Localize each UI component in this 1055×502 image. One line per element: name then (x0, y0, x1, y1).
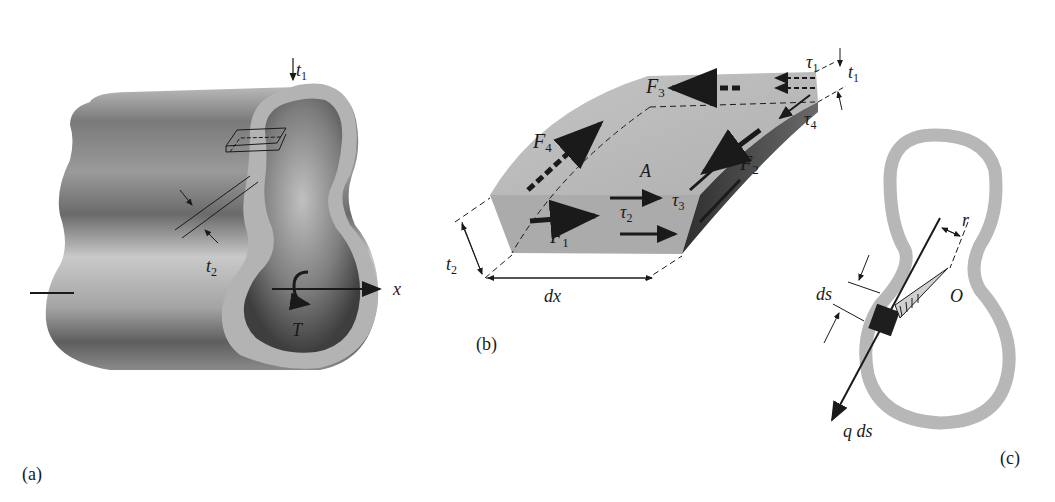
panel-a-tube-diagram: t1 t2 x T (a) (22, 58, 401, 485)
label-ds: ds (816, 284, 832, 304)
element-front-face (490, 195, 700, 254)
label-x-axis: x (392, 279, 401, 299)
label-t1-b: t1 (848, 62, 859, 85)
caption-a: (a) (22, 464, 42, 485)
label-dx: dx (544, 286, 561, 306)
label-r: r (962, 210, 970, 230)
figure-canvas: t1 t2 x T (a) (0, 0, 1055, 502)
caption-c: (c) (1000, 448, 1020, 469)
caption-b: (b) (476, 334, 497, 355)
label-qds: q ds (843, 421, 873, 441)
label-t2-b: t2 (446, 254, 457, 277)
panel-b-element-diagram: F4 F3 F2 F1 A τ2 τ3 τ1 τ4 t1 t2 dx (b) (446, 48, 859, 355)
label-A: A (639, 161, 652, 181)
panel-c-cross-section: ds r O q ds (c) (816, 135, 1020, 469)
label-tau1: τ1 (806, 52, 818, 75)
label-O: O (950, 286, 963, 306)
label-t1-a: t1 (296, 60, 307, 83)
